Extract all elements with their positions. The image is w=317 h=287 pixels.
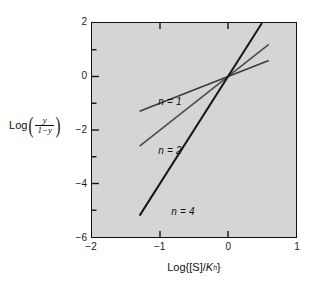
x-axis-title: Log { [S] / Kh } (91, 261, 297, 273)
y-axis-open-paren: ( (29, 113, 34, 137)
series-label-n1-text: n = 1 (158, 96, 182, 107)
series-label-n1: n = 1 (158, 96, 182, 107)
y-axis-tick-labels: 20−2−4−6 (62, 22, 87, 238)
y-axis-fraction-numerator: y (41, 116, 49, 125)
y-axis-fraction-denominator: 1−y (35, 126, 54, 135)
series-line-n4 (140, 23, 262, 216)
x-axis-k-symbol: K (206, 261, 213, 273)
x-tick-label-3: 1 (285, 241, 309, 252)
y-tick-label-0: 2 (65, 17, 87, 27)
y-tick-label-3: −4 (65, 179, 87, 189)
y-axis-close-paren: ) (56, 113, 61, 137)
plot-canvas (92, 23, 296, 237)
series-label-n2-text: n = 2 (158, 145, 182, 156)
x-axis-title-log: Log (167, 261, 185, 273)
y-tick-label-1: 0 (65, 71, 87, 81)
hill-plot-figure: 20−2−4−6 −2−101 n = 1 n = 2 n = 4 Log ( … (0, 0, 317, 287)
x-axis-close-brace: } (217, 261, 221, 273)
x-axis-substrate: [S] (189, 261, 202, 273)
x-tick-label-1: −1 (148, 241, 172, 252)
y-axis-fraction: y 1−y (35, 116, 54, 135)
x-tick-label-0: −2 (79, 241, 103, 252)
y-axis-title: Log ( y 1−y ) (8, 113, 62, 137)
series-label-n4: n = 4 (171, 206, 195, 217)
y-axis-title-log: Log (9, 119, 27, 131)
x-axis-tick-labels: −2−101 (91, 241, 297, 255)
series-label-n2: n = 2 (158, 145, 182, 156)
x-tick-label-2: 0 (216, 241, 240, 252)
y-tick-label-2: −2 (65, 125, 87, 135)
data-series-lines (140, 23, 269, 216)
series-label-n4-text: n = 4 (171, 206, 195, 217)
